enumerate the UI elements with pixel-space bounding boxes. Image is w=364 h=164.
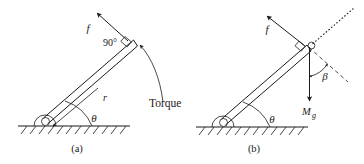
caption-b: (b) [248, 143, 261, 155]
rod-extension-dotted-line-b [313, 8, 354, 44]
theta-label-b: θ [269, 113, 275, 125]
figure-canvas: f r θ 90° Torque (a) [0, 0, 364, 164]
torque-curved-arrow-a [140, 45, 163, 102]
weight-label-b-gravity: g [312, 111, 316, 120]
panel-a: f r θ 90° Torque (a) [18, 13, 181, 155]
theta-label-a: θ [91, 112, 97, 124]
weight-label-b: M g [301, 106, 316, 120]
physics-figure: f r θ 90° Torque (a) [0, 0, 364, 164]
weight-label-b-mass: M [301, 106, 312, 117]
panel-b: f θ β M g (b) [196, 8, 354, 155]
ground-hatching-b [199, 127, 304, 135]
torque-label-a: Torque [149, 97, 181, 110]
beta-label-b: β [321, 70, 328, 82]
caption-a: (a) [71, 143, 83, 155]
hinge-pivot-a [42, 118, 50, 126]
ground-hatching-a [21, 126, 126, 134]
perpendicular-dashed-line-b [309, 48, 348, 83]
rod-b [222, 45, 312, 125]
radius-label-a: r [103, 92, 107, 103]
force-arrow-b [267, 16, 305, 46]
force-label-b: f [265, 23, 270, 35]
force-label-a: f [86, 22, 91, 34]
right-angle-label-a: 90° [103, 37, 117, 48]
right-angle-mark-a [121, 37, 132, 47]
hinge-pivot-b [220, 119, 228, 127]
